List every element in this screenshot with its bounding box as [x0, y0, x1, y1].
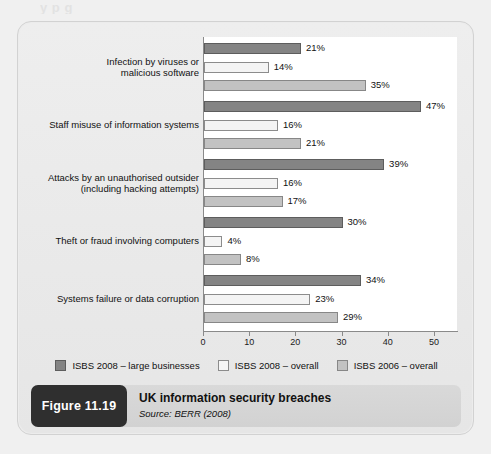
bar — [204, 80, 366, 91]
category-label: Staff misuse of information systems — [49, 119, 199, 131]
bar — [204, 217, 343, 228]
x-tick — [295, 332, 296, 336]
x-tick-label: 30 — [337, 337, 347, 347]
bar-value-label: 35% — [371, 79, 390, 90]
category-label-line: Theft or fraud involving computers — [55, 235, 199, 247]
bar — [204, 138, 301, 149]
x-tick — [203, 332, 204, 336]
bar-value-label: 17% — [288, 195, 307, 206]
category-label: Theft or fraud involving computers — [55, 235, 199, 247]
bar-value-label: 29% — [343, 311, 362, 322]
bar — [204, 294, 310, 305]
legend-swatch — [337, 360, 348, 371]
figure-number-badge: Figure 11.19 — [31, 385, 127, 427]
category-label-line: Systems failure or data corruption — [57, 293, 199, 305]
figure-panel: Infection by viruses ormalicious softwar… — [17, 21, 474, 435]
chart-legend: ISBS 2008 – large businessesISBS 2008 – … — [19, 355, 474, 375]
legend-label: ISBS 2008 – large businesses — [72, 360, 199, 371]
category-label: Attacks by an unauthorised outsider(incl… — [48, 172, 199, 195]
bar — [204, 236, 222, 247]
bar — [204, 254, 241, 265]
category-label: Infection by viruses ormalicious softwar… — [107, 56, 199, 79]
bar — [204, 196, 283, 207]
bar — [204, 178, 278, 189]
figure-caption-bar: Figure 11.19 UK information security bre… — [31, 385, 461, 427]
bar-value-label: 34% — [366, 274, 385, 285]
x-tick-label: 10 — [244, 337, 254, 347]
bar — [204, 159, 384, 170]
bar-value-label: 21% — [306, 42, 325, 53]
figure-panel-inner: Infection by viruses ormalicious softwar… — [19, 23, 472, 433]
bar-value-label: 23% — [315, 293, 334, 304]
caption-title: UK information security breaches — [139, 391, 453, 406]
x-tick-label: 50 — [429, 337, 439, 347]
x-axis-line — [203, 331, 458, 332]
bar-value-label: 14% — [274, 61, 293, 72]
bar — [204, 43, 301, 54]
legend-item[interactable]: ISBS 2006 – overall — [337, 360, 438, 371]
bar-value-label: 16% — [283, 119, 302, 130]
category-label-line: (including hacking attempts) — [48, 183, 199, 195]
bar — [204, 312, 338, 323]
bar-value-label: 4% — [227, 235, 241, 246]
legend-item[interactable]: ISBS 2008 – large businesses — [55, 360, 199, 371]
category-labels: Infection by viruses ormalicious softwar… — [19, 37, 199, 331]
legend-swatch — [55, 360, 66, 371]
x-tick — [342, 332, 343, 336]
bar-value-label: 30% — [348, 216, 367, 227]
legend-label: ISBS 2008 – overall — [235, 360, 319, 371]
bar — [204, 62, 269, 73]
bar-value-label: 47% — [426, 100, 445, 111]
legend-swatch — [218, 360, 229, 371]
category-label: Systems failure or data corruption — [57, 293, 199, 305]
bar — [204, 120, 278, 131]
bar-value-label: 39% — [389, 158, 408, 169]
figure-number-label: Figure 11.19 — [42, 399, 117, 413]
bar — [204, 275, 361, 286]
x-tick — [434, 332, 435, 336]
x-tick — [249, 332, 250, 336]
caption-text: UK information security breaches Source:… — [139, 391, 453, 420]
category-label-line: Staff misuse of information systems — [49, 119, 199, 131]
figure-page: y p g Infection by viruses ormalicious s… — [0, 0, 491, 454]
category-label-line: Infection by viruses or — [107, 56, 199, 68]
cut-off-heading-text: y p g — [0, 0, 491, 14]
category-label-line: malicious software — [107, 67, 199, 79]
bar-chart: Infection by viruses ormalicious softwar… — [19, 23, 474, 343]
legend-label: ISBS 2006 – overall — [354, 360, 438, 371]
legend-item[interactable]: ISBS 2008 – overall — [218, 360, 319, 371]
x-tick-label: 40 — [383, 337, 393, 347]
bar-value-label: 16% — [283, 177, 302, 188]
x-tick — [388, 332, 389, 336]
category-label-line: Attacks by an unauthorised outsider — [48, 172, 199, 184]
x-tick-label: 20 — [290, 337, 300, 347]
bar — [204, 101, 421, 112]
bar-value-label: 21% — [306, 137, 325, 148]
caption-source: Source: BERR (2008) — [139, 407, 453, 420]
bar-value-label: 8% — [246, 253, 260, 264]
x-tick-label: 0 — [200, 337, 205, 347]
